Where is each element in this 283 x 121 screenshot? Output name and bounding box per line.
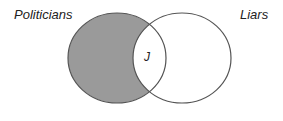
venn-diagram: Politicians Liars J xyxy=(0,0,283,121)
liars-label: Liars xyxy=(240,8,268,21)
intersection-label: J xyxy=(144,51,150,63)
politicians-label: Politicians xyxy=(14,8,73,21)
